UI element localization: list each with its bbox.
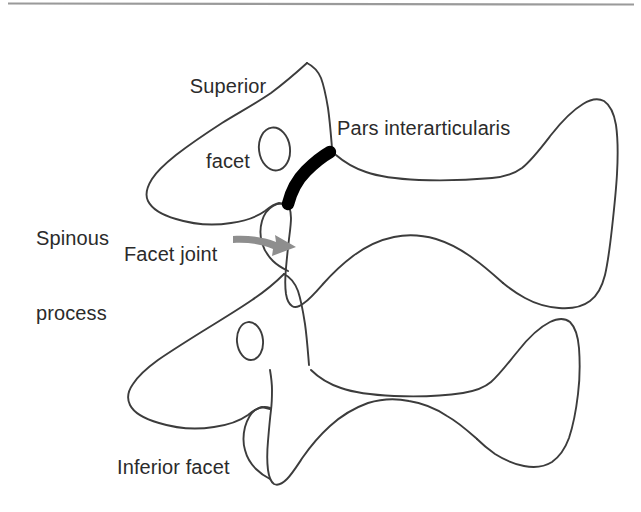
lower-vertebra-superior-facet (284, 274, 309, 365)
pars-interarticularis-highlight (288, 152, 330, 204)
label-superior-facet-line1: Superior (163, 74, 293, 99)
label-spinous-process: Spinous process (36, 176, 142, 376)
top-divider-rule (8, 4, 634, 5)
figure-canvas: Superior facet Pars interarticularis Spi… (0, 0, 641, 512)
label-facet-joint: Facet joint (124, 242, 217, 267)
upper-vertebra-superior-facet (307, 63, 332, 148)
lower-vertebra-neck-notch (244, 407, 271, 479)
label-superior-facet-line2: facet (163, 149, 293, 174)
lower-vertebra-inferior-facet-leg (267, 370, 477, 485)
lower-vertebra-body-and-tail (311, 319, 580, 467)
label-superior-facet: Superior facet (163, 24, 293, 224)
label-pars-interarticularis: Pars interarticularis (337, 116, 510, 141)
label-spinous-process-line2: process (36, 301, 142, 326)
label-inferior-facet: Inferior facet (117, 455, 230, 480)
lower-vertebra-pedicle-eye (235, 321, 265, 362)
upper-vertebra-inferior-facet-leg (285, 206, 503, 307)
